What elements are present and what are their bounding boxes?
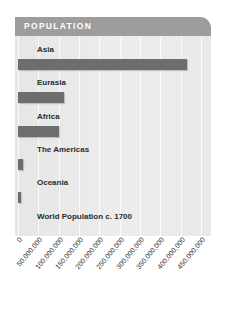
x-tick-label: 0 [15, 236, 24, 244]
bar-row: Oceania [15, 169, 211, 202]
bar-row: The Americas [15, 136, 211, 169]
bar-row: World Population c. 1700 [15, 203, 211, 236]
category-label: The Americas [37, 145, 89, 155]
chart-header-bar: POPULATION [15, 17, 211, 36]
page-title: POPULATION [24, 21, 92, 32]
population-bar-chart: POPULATION AsiaEurasiaAfricaThe Americas… [0, 0, 227, 314]
bar [18, 126, 59, 137]
bar-row: Africa [15, 103, 211, 136]
bar-row: Asia [15, 36, 211, 69]
category-label: Africa [37, 112, 60, 122]
x-axis: 050,000,000100,000,000150,000,000200,000… [15, 236, 211, 314]
plot-area: AsiaEurasiaAfricaThe AmericasOceaniaWorl… [15, 36, 211, 236]
bar-row: Eurasia [15, 69, 211, 102]
category-label: Eurasia [37, 78, 66, 88]
category-label: Asia [37, 45, 54, 55]
category-label: World Population c. 1700 [37, 212, 132, 222]
category-label: Oceania [37, 178, 68, 188]
